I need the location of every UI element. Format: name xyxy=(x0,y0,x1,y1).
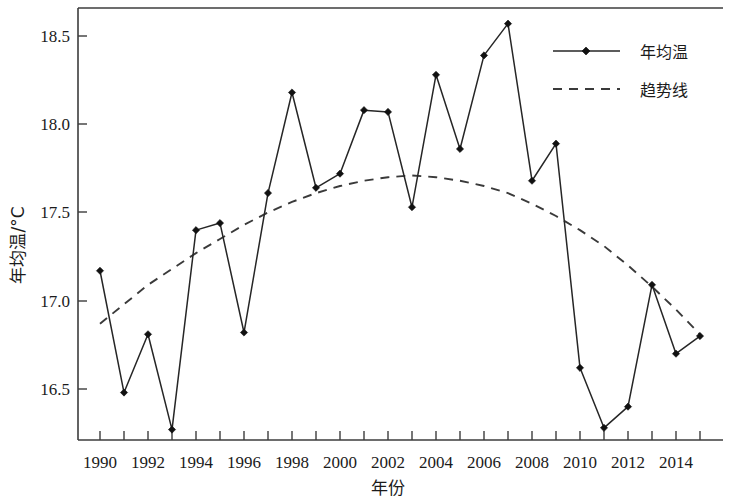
x-tick-label: 1994 xyxy=(179,453,214,472)
y-tick-label: 16.5 xyxy=(40,380,70,399)
x-tick-label: 2006 xyxy=(467,453,501,472)
chart-background xyxy=(0,0,731,502)
x-tick-label: 2002 xyxy=(371,453,405,472)
x-tick-label: 1996 xyxy=(227,453,261,472)
x-tick-label: 2008 xyxy=(515,453,549,472)
chart-figure: 18.5 18.0 17.5 17.0 16.5 xyxy=(0,0,731,502)
x-tick-label: 2010 xyxy=(563,453,597,472)
legend-label-trend: 趋势线 xyxy=(640,81,688,100)
y-tick-label: 18.5 xyxy=(40,27,70,46)
x-tick-label: 2014 xyxy=(659,453,694,472)
y-tick-label: 18.0 xyxy=(40,115,70,134)
y-tick-label: 17.0 xyxy=(40,292,70,311)
y-tick-label: 17.5 xyxy=(40,203,70,222)
x-tick-label: 1998 xyxy=(275,453,309,472)
line-chart-canvas: 18.5 18.0 17.5 17.0 16.5 xyxy=(0,0,731,502)
x-tick-label: 1990 xyxy=(83,453,117,472)
x-axis-title: 年份 xyxy=(371,478,405,498)
x-tick-label: 2012 xyxy=(611,453,645,472)
x-tick-label: 2000 xyxy=(323,453,357,472)
x-tick-label: 2004 xyxy=(419,453,454,472)
legend-label-series: 年均温 xyxy=(640,43,688,62)
y-axis-title: 年均温/°C xyxy=(8,206,28,283)
x-tick-label: 1992 xyxy=(131,453,165,472)
